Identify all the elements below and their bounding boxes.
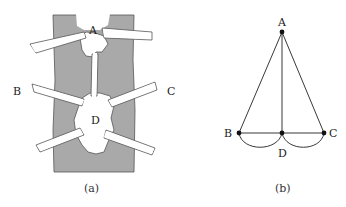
edge-d-c-arc bbox=[282, 133, 324, 147]
caption-b: (b) bbox=[275, 182, 291, 195]
graph-label-d: D bbox=[278, 147, 287, 160]
caption-a: (a) bbox=[84, 182, 99, 195]
graph-label-c: C bbox=[329, 127, 337, 140]
label-d: D bbox=[91, 114, 100, 127]
label-c: C bbox=[167, 85, 175, 98]
vertex-a bbox=[280, 30, 285, 35]
figure-canvas: A B C D (a) A B C D (b) bbox=[0, 0, 346, 207]
vertex-b bbox=[237, 131, 242, 136]
vertices bbox=[237, 30, 327, 136]
label-a: A bbox=[88, 24, 98, 37]
vertex-c bbox=[322, 131, 327, 136]
panel-b-graph bbox=[239, 32, 324, 147]
panel-a-map: A B C D (a) bbox=[13, 14, 175, 195]
edge-a-b bbox=[239, 32, 282, 133]
graph-label-b: B bbox=[224, 127, 232, 140]
edge-b-d-arc bbox=[239, 133, 282, 147]
label-b: B bbox=[13, 85, 21, 98]
edge-a-c bbox=[282, 32, 324, 133]
graph-label-a: A bbox=[277, 16, 287, 29]
vertex-d bbox=[280, 131, 285, 136]
